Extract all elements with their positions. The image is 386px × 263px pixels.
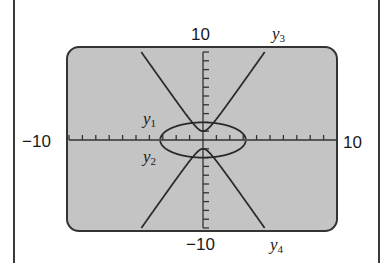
- legend-y4: y4: [270, 236, 283, 255]
- legend-y2: y2: [143, 148, 156, 167]
- y-min-label: −10: [186, 236, 215, 253]
- x-min-label: −10: [22, 133, 51, 150]
- y-max-label: 10: [191, 26, 210, 43]
- legend-y1: y1: [143, 110, 156, 129]
- x-max-label: 10: [343, 134, 362, 151]
- legend-y3: y3: [272, 25, 285, 44]
